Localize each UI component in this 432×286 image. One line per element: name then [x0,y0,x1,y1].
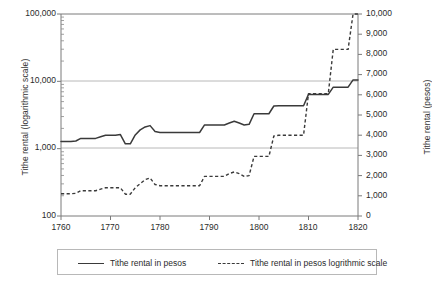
legend-solid-line-icon [78,263,104,264]
legend-entry-solid: Tithe rental in pesos [78,250,186,276]
axis-frame [61,14,358,216]
chart-plot: Tithe rental (logarithmic scale) Tithe r… [0,0,429,240]
legend-entry-dashed: Tithe rental in pesos logrithmic scale [218,250,387,276]
chart-svg [0,0,429,240]
x-axis-ticks [61,216,358,220]
chart-legend: Tithe rental in pesos Tithe rental in pe… [57,249,377,275]
legend-label-pesos: Tithe rental in pesos [110,258,186,268]
series-line-tithe-rental-log [61,14,358,194]
gridlines [61,81,358,148]
legend-label-log: Tithe rental in pesos logrithmic scale [250,258,387,268]
legend-dashed-line-icon [218,263,244,264]
y-axis-left-major-ticks [57,14,61,216]
y-axis-right-ticks [358,14,362,216]
series-line-tithe-rental-pesos [61,80,358,144]
